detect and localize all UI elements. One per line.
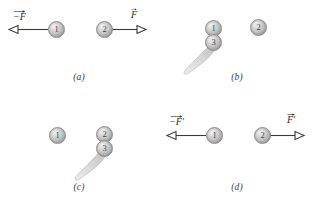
ball-3: 3: [96, 140, 113, 157]
ball-1: 1: [206, 127, 223, 144]
panel-a: −F F 1 2 (a): [0, 0, 158, 105]
ball-label: 2: [260, 131, 264, 140]
panel-b: 1 3 2 (b): [158, 0, 316, 105]
panel-caption-a: (a): [0, 72, 158, 82]
ball-label: 3: [102, 144, 106, 153]
ball-label: 1: [54, 25, 58, 34]
force-label-text: −F: [13, 11, 26, 22]
ball-1: 1: [48, 21, 65, 38]
force-label-text: −F: [169, 116, 182, 127]
force-label-right-a: F: [131, 8, 137, 20]
force-label-right-d: F′: [287, 113, 295, 125]
vector-arrow-icon: [13, 9, 26, 13]
ball-label: 2: [102, 25, 106, 34]
ball-3: 3: [205, 34, 222, 51]
prime-mark: ′: [182, 116, 184, 127]
vector-arrow-icon: [287, 112, 295, 116]
panel-caption-b: (b): [158, 72, 316, 82]
ball-1: 1: [49, 127, 66, 144]
panel-caption-d: (d): [158, 182, 316, 192]
prime-mark: ′: [293, 114, 295, 125]
ball-2: 2: [250, 19, 267, 36]
force-label-left-d: −F′: [169, 115, 184, 127]
vector-arrow-icon: [131, 7, 137, 11]
ball-label: 1: [212, 131, 216, 140]
ball-label: 2: [256, 23, 260, 32]
force-label-left-a: −F: [13, 10, 26, 22]
panel-d: −F′ F′ 1 2 (d): [158, 106, 316, 211]
panel-c: 1 2 3 (c): [0, 106, 158, 211]
force-label-text: F: [131, 9, 137, 20]
ball-2: 2: [96, 21, 113, 38]
ball-2: 2: [254, 127, 271, 144]
physics-figure: −F F 1 2 (a): [0, 0, 316, 211]
vector-arrow-icon: [169, 114, 184, 118]
ball-label: 3: [211, 38, 215, 47]
ball-label: 1: [211, 24, 215, 33]
ball-label: 1: [55, 131, 59, 140]
ball-label: 2: [102, 130, 106, 139]
panel-caption-c: (c): [0, 182, 158, 192]
